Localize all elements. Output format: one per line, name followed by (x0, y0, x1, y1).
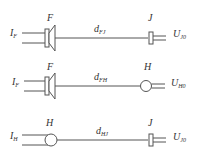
connector-icon (149, 134, 166, 146)
input-label: IF (9, 27, 17, 39)
target-label: J (148, 12, 153, 23)
connector-icon (149, 32, 166, 44)
speaker-icon (45, 25, 55, 51)
target-label: J (148, 117, 153, 128)
diagram-row-fj: F IF dFJ J UJ0 (9, 12, 186, 51)
input-label: IF (11, 76, 19, 88)
speaker-icon (45, 73, 55, 99)
source-circle-icon (45, 134, 57, 146)
source-label: F (46, 61, 54, 72)
distance-label: dHJ (96, 125, 108, 137)
diagram-row-hj: H IH dHJ J UJ0 (9, 117, 186, 146)
source-label: F (46, 12, 54, 23)
receiver-circle-icon (141, 81, 166, 92)
input-label: IH (9, 130, 18, 142)
source-label: H (45, 117, 54, 128)
output-label: UH0 (171, 77, 186, 89)
output-label: UJ0 (173, 28, 186, 40)
transfer-diagrams: F IF dFJ J UJ0 F IF dFH H (0, 0, 197, 152)
output-label: UJ0 (173, 131, 186, 143)
distance-label: dFJ (94, 23, 106, 35)
target-label: H (143, 61, 152, 72)
diagram-row-fh: F IF dFH H UH0 (11, 61, 186, 99)
distance-label: dFH (94, 71, 108, 83)
